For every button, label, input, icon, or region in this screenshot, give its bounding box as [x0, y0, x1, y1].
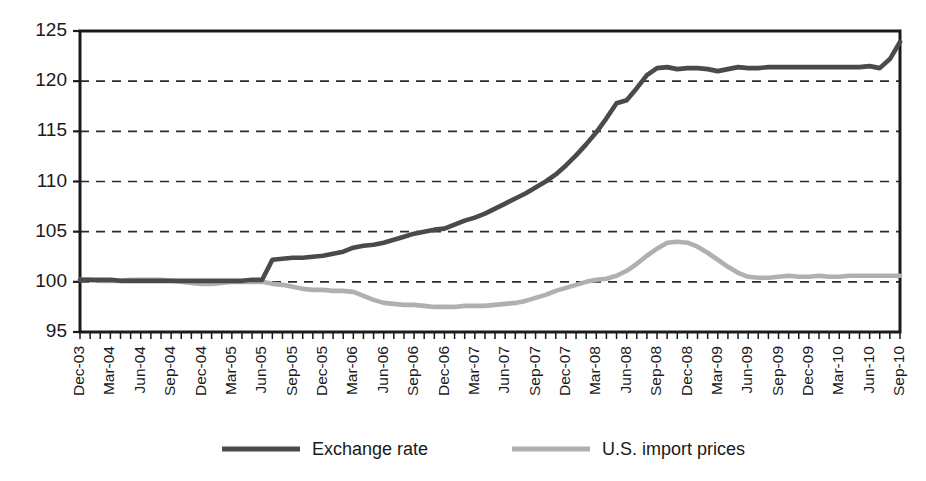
x-axis-tick-labels: Dec-03Mar-04Jun-04Sep-04Dec-04Mar-05Jun-…	[70, 346, 907, 396]
x-tick-label-Dec-09: Dec-09	[799, 346, 816, 396]
x-tick-label-Dec-07: Dec-07	[556, 346, 573, 396]
series-line-u-s-import-prices	[80, 242, 900, 307]
series-line-exchange-rate	[80, 42, 900, 281]
x-tick-label-Sep-08: Sep-08	[647, 346, 664, 396]
x-tick-label-Mar-04: Mar-04	[100, 346, 117, 395]
x-tick-label-Sep-04: Sep-04	[161, 346, 178, 396]
legend-label-exchange-rate: Exchange rate	[312, 439, 428, 459]
x-tick-label-Sep-05: Sep-05	[283, 346, 300, 396]
x-tick-label-Sep-07: Sep-07	[526, 346, 543, 396]
x-tick-label-Jun-06: Jun-06	[374, 346, 391, 393]
y-axis-tick-labels: 95100105110115120125	[35, 19, 67, 341]
x-tick-label-Dec-05: Dec-05	[313, 346, 330, 396]
x-tick-label-Mar-10: Mar-10	[829, 346, 846, 395]
x-tick-label-Mar-05: Mar-05	[222, 346, 239, 395]
x-tick-label-Jun-09: Jun-09	[738, 346, 755, 393]
line-chart: 95100105110115120125 Dec-03Mar-04Jun-04S…	[0, 0, 926, 481]
x-tick-label-Jun-07: Jun-07	[495, 346, 512, 393]
y-tick-label-120: 120	[35, 69, 67, 90]
legend-label-u-s-import-prices: U.S. import prices	[602, 439, 745, 459]
y-tick-label-95: 95	[46, 320, 67, 341]
x-tick-label-Mar-06: Mar-06	[343, 346, 360, 395]
chart-legend: Exchange rateU.S. import prices	[222, 439, 745, 459]
x-tick-label-Jun-04: Jun-04	[131, 346, 148, 394]
y-tick-label-110: 110	[37, 170, 67, 191]
x-tick-label-Jun-10: Jun-10	[860, 346, 877, 394]
x-tick-label-Sep-06: Sep-06	[404, 346, 421, 396]
x-tick-label-Jun-08: Jun-08	[617, 346, 634, 393]
x-tick-label-Mar-08: Mar-08	[586, 346, 603, 395]
y-tick-label-125: 125	[35, 19, 67, 40]
y-tick-label-105: 105	[35, 220, 67, 241]
chart-canvas: 95100105110115120125 Dec-03Mar-04Jun-04S…	[0, 0, 926, 481]
x-tick-label-Dec-03: Dec-03	[70, 346, 87, 396]
x-tick-label-Jun-05: Jun-05	[252, 346, 269, 393]
x-tick-label-Sep-09: Sep-09	[769, 346, 786, 396]
y-tick-label-100: 100	[35, 270, 67, 291]
gridlines-group	[80, 81, 900, 282]
x-tick-label-Dec-04: Dec-04	[192, 346, 209, 396]
y-tick-label-115: 115	[37, 119, 67, 140]
x-tick-label-Mar-07: Mar-07	[465, 346, 482, 395]
x-tick-label-Dec-06: Dec-06	[435, 346, 452, 396]
x-tick-label-Mar-09: Mar-09	[708, 346, 725, 395]
x-tick-label-Sep-10: Sep-10	[890, 346, 907, 396]
x-tick-label-Dec-08: Dec-08	[678, 346, 695, 396]
